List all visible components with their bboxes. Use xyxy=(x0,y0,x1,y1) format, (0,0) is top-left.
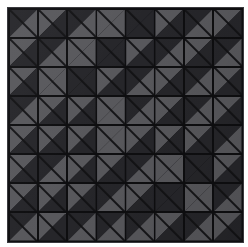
tile-r5-c7 xyxy=(185,126,213,154)
tile-r3-c7 xyxy=(185,68,213,96)
tile-r3-c1 xyxy=(10,68,38,96)
tile-r4-c6 xyxy=(155,97,183,125)
tile-r5-c4 xyxy=(97,126,125,154)
tile-r8-c4 xyxy=(97,213,125,241)
tile-r5-c2 xyxy=(39,126,67,154)
tile-r4-c1 xyxy=(10,97,38,125)
tile-r2-c7 xyxy=(185,39,213,67)
tile-r2-c1 xyxy=(10,39,38,67)
tile-r7-c7 xyxy=(185,184,213,212)
tile-r5-c1 xyxy=(10,126,38,154)
tile-r6-c6 xyxy=(155,155,183,183)
tile-r4-c5 xyxy=(126,97,154,125)
tile-r1-c3 xyxy=(68,10,96,38)
tile-r8-c7 xyxy=(185,213,213,241)
tile-r8-c3 xyxy=(68,213,96,241)
tile-r2-c3 xyxy=(68,39,96,67)
tile-r3-c8 xyxy=(214,68,242,96)
tile-r4-c8 xyxy=(214,97,242,125)
tile-r3-c4 xyxy=(97,68,125,96)
tile-r8-c6 xyxy=(155,213,183,241)
tile-r5-c6 xyxy=(155,126,183,154)
tile-r1-c2 xyxy=(39,10,67,38)
tile-r8-c5 xyxy=(126,213,154,241)
tile-r4-c3 xyxy=(68,97,96,125)
tile-r6-c4 xyxy=(97,155,125,183)
tile-r3-c3 xyxy=(68,68,96,96)
tile-r6-c5 xyxy=(126,155,154,183)
tile-r7-c2 xyxy=(39,184,67,212)
tile-r1-c5 xyxy=(126,10,154,38)
tile-r6-c7 xyxy=(185,155,213,183)
tile-r5-c3 xyxy=(68,126,96,154)
tile-r8-c8 xyxy=(214,213,242,241)
tile-r2-c4 xyxy=(97,39,125,67)
tile-r1-c8 xyxy=(214,10,242,38)
tile-r4-c4 xyxy=(97,97,125,125)
tile-r5-c5 xyxy=(126,126,154,154)
tile-r2-c5 xyxy=(126,39,154,67)
tile-r3-c5 xyxy=(126,68,154,96)
artwork-frame xyxy=(0,0,248,247)
tile-r6-c3 xyxy=(68,155,96,183)
tile-grid xyxy=(8,8,243,242)
tile-panel xyxy=(7,7,244,243)
tile-r7-c6 xyxy=(155,184,183,212)
tile-r7-c3 xyxy=(68,184,96,212)
tile-r5-c8 xyxy=(214,126,242,154)
tile-r2-c2 xyxy=(39,39,67,67)
tile-r8-c1 xyxy=(10,213,38,241)
tile-r3-c6 xyxy=(155,68,183,96)
tile-r7-c5 xyxy=(126,184,154,212)
tile-r6-c1 xyxy=(10,155,38,183)
tile-r1-c6 xyxy=(155,10,183,38)
tile-r1-c7 xyxy=(185,10,213,38)
tile-r1-c1 xyxy=(10,10,38,38)
tile-r7-c4 xyxy=(97,184,125,212)
tile-r6-c2 xyxy=(39,155,67,183)
tile-r4-c2 xyxy=(39,97,67,125)
tile-r1-c4 xyxy=(97,10,125,38)
tile-r2-c8 xyxy=(214,39,242,67)
tile-r2-c6 xyxy=(155,39,183,67)
tile-r7-c8 xyxy=(214,184,242,212)
tile-r8-c2 xyxy=(39,213,67,241)
tile-r6-c8 xyxy=(214,155,242,183)
tile-r7-c1 xyxy=(10,184,38,212)
tile-r4-c7 xyxy=(185,97,213,125)
tile-r3-c2 xyxy=(39,68,67,96)
